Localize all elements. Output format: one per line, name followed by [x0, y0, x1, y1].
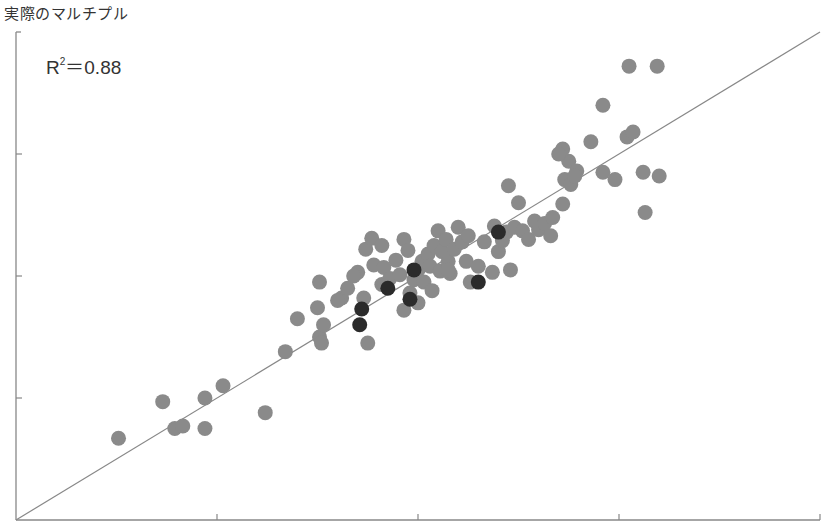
data-point [471, 259, 486, 274]
data-point [567, 168, 582, 183]
data-point [638, 205, 653, 220]
data-point [501, 178, 516, 193]
data-point [346, 269, 361, 284]
data-point [400, 243, 415, 258]
data-point [197, 421, 212, 436]
data-point [258, 405, 273, 420]
data-point [425, 283, 440, 298]
data-point [441, 262, 456, 277]
data-point [216, 378, 231, 393]
data-point [545, 210, 560, 225]
data-point [503, 262, 518, 277]
data-point [555, 197, 570, 212]
highlighted-point [491, 225, 506, 240]
data-point [290, 311, 305, 326]
data-point [652, 168, 667, 183]
data-point [314, 336, 329, 351]
data-point [316, 317, 331, 332]
data-point [551, 147, 566, 162]
data-point [650, 59, 665, 74]
data-point [310, 300, 325, 315]
data-point [111, 431, 126, 446]
data-point [312, 275, 327, 290]
data-point [330, 293, 345, 308]
highlighted-point [406, 262, 421, 277]
data-points [111, 59, 667, 446]
highlighted-point [380, 281, 395, 296]
data-point [155, 394, 170, 409]
data-point [477, 234, 492, 249]
scatter-plot [0, 0, 832, 527]
data-point [543, 228, 558, 243]
data-point [392, 267, 407, 282]
data-point [595, 98, 610, 113]
highlighted-point [402, 292, 417, 307]
data-point [360, 336, 375, 351]
data-point [461, 228, 476, 243]
data-point [485, 265, 500, 280]
data-point [583, 134, 598, 149]
data-point [636, 165, 651, 180]
data-point [511, 195, 526, 210]
data-point [622, 59, 637, 74]
data-point [374, 238, 389, 253]
data-point [626, 125, 641, 140]
highlighted-point [471, 275, 486, 290]
data-point [607, 172, 622, 187]
data-point [278, 344, 293, 359]
data-point [175, 419, 190, 434]
data-point [388, 253, 403, 268]
highlighted-point [354, 301, 369, 316]
data-point [197, 391, 212, 406]
highlighted-point [352, 317, 367, 332]
